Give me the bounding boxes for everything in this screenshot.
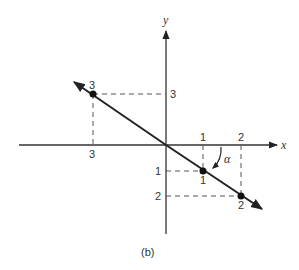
y-axis-label: y <box>162 13 169 27</box>
figure-canvas: y x 3 3 3 1 2 1 2 1 2 α (b) <box>0 0 299 270</box>
x-tick-2-label: 2 <box>238 131 244 143</box>
x-tick-1-label: 1 <box>200 131 206 143</box>
y-tick-3-label: 3 <box>170 88 176 100</box>
point-1-label: 1 <box>200 174 206 186</box>
angle-alpha-label: α <box>224 152 231 166</box>
point-2-label: 2 <box>238 199 244 211</box>
coordinate-diagram: y x 3 3 3 1 2 1 2 1 2 α (b) <box>0 0 299 270</box>
x-tick-neg3-label: 3 <box>89 148 95 160</box>
y-tick-neg1-label: 1 <box>155 165 161 177</box>
line-y-equals-neg-x-upper <box>74 82 166 145</box>
line-y-equals-neg-x <box>166 145 262 209</box>
figure-caption: (b) <box>141 246 154 258</box>
x-axis-label: x <box>280 138 287 152</box>
point-3 <box>90 91 97 98</box>
angle-arc <box>213 147 221 168</box>
point-3-label: 3 <box>89 79 95 91</box>
y-tick-neg2-label: 2 <box>155 190 161 202</box>
